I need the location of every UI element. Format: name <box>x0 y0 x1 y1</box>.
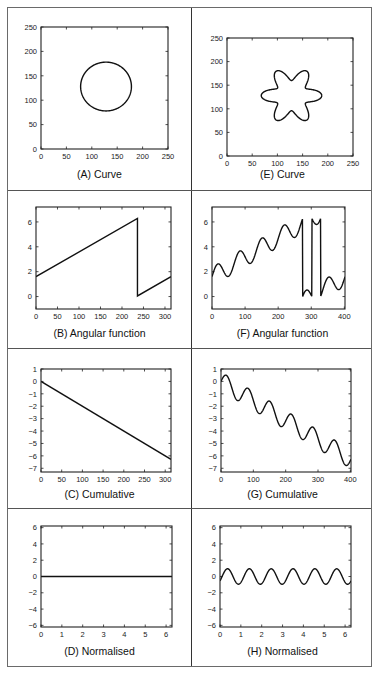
data-series-line <box>212 219 345 297</box>
panel-c-cumulative: 05010015020025030010−1−2−3−4−5−6−7 (C) C… <box>8 349 191 508</box>
y-tick-label: −6 <box>28 621 37 630</box>
caption-g: (G) Cumulative <box>192 488 373 500</box>
y-tick-label: −4 <box>28 427 37 436</box>
x-tick-label: 0 <box>210 312 214 321</box>
y-tick-label: 0 <box>213 377 217 386</box>
caption-a: (A) Curve <box>8 168 191 180</box>
y-tick-label: 2 <box>33 556 37 565</box>
x-tick-label: 200 <box>136 152 149 161</box>
x-tick-label: 250 <box>162 152 175 161</box>
plot-frame <box>227 38 353 156</box>
panel-b-angular-function: 0501001502002503000246 (B) Angular funct… <box>8 191 191 348</box>
x-tick-label: 300 <box>159 312 172 321</box>
x-tick-label: 50 <box>62 152 70 161</box>
panel-d-normalised: 01234566420−2−4−6 (D) Normalised <box>8 509 191 667</box>
x-tick-label: 1 <box>60 630 64 639</box>
y-tick-label: 50 <box>215 128 223 137</box>
x-tick-label: 6 <box>343 630 347 639</box>
plot-h: 01234566420−2−4−6 <box>192 509 373 644</box>
y-tick-label: −6 <box>208 452 217 461</box>
x-tick-label: 50 <box>248 159 256 168</box>
y-tick-label: −7 <box>208 464 217 473</box>
plot-frame <box>212 207 345 309</box>
y-tick-label: −3 <box>28 414 37 423</box>
y-tick-label: 0 <box>28 292 32 301</box>
x-tick-label: 300 <box>312 475 325 484</box>
x-tick-label: 3 <box>280 630 284 639</box>
x-tick-label: 5 <box>322 630 326 639</box>
x-tick-label: 100 <box>76 475 89 484</box>
y-tick-label: 0 <box>33 572 37 581</box>
y-tick-label: −5 <box>28 439 37 448</box>
y-tick-label: 2 <box>212 556 216 565</box>
plot-e: 050100150200250050100150200250 <box>192 8 373 168</box>
x-tick-label: 200 <box>272 312 285 321</box>
x-tick-label: 2 <box>260 630 264 639</box>
y-tick-label: 150 <box>210 81 223 90</box>
x-tick-label: 0 <box>218 630 222 639</box>
y-tick-label: 6 <box>204 218 208 227</box>
x-tick-label: 100 <box>271 159 284 168</box>
y-tick-label: −6 <box>28 452 37 461</box>
plot-d: 01234566420−2−4−6 <box>8 509 191 644</box>
y-tick-label: 200 <box>24 47 37 56</box>
x-tick-label: 400 <box>344 475 357 484</box>
plot-frame <box>36 207 171 309</box>
x-tick-label: 4 <box>301 630 305 639</box>
y-tick-label: −2 <box>28 402 37 411</box>
caption-h: (H) Normalised <box>192 645 373 657</box>
y-tick-label: 4 <box>212 540 216 549</box>
data-series-line <box>81 62 132 111</box>
panel-e-curve: 050100150200250050100150200250 (E) Curve <box>192 8 373 190</box>
x-tick-label: 50 <box>58 475 66 484</box>
x-tick-label: 0 <box>34 312 38 321</box>
data-series-line <box>261 71 321 121</box>
y-tick-label: 0 <box>204 292 208 301</box>
x-tick-label: 200 <box>279 475 292 484</box>
y-tick-label: 0 <box>33 145 37 154</box>
y-tick-label: 1 <box>213 365 217 374</box>
x-tick-label: 0 <box>225 159 229 168</box>
x-tick-label: 2 <box>81 630 85 639</box>
x-tick-label: 200 <box>322 159 335 168</box>
y-tick-label: 0 <box>33 377 37 386</box>
data-series-line <box>36 218 171 296</box>
y-tick-label: 200 <box>210 57 223 66</box>
data-series-line <box>221 375 351 465</box>
y-tick-label: 150 <box>24 72 37 81</box>
y-tick-label: 6 <box>212 523 216 532</box>
x-tick-label: 200 <box>116 312 129 321</box>
y-tick-label: −5 <box>208 439 217 448</box>
panel-g-cumulative: 010020030040010−1−2−3−4−5−6−7 (G) Cumula… <box>192 349 373 508</box>
y-tick-label: 1 <box>33 365 37 374</box>
y-tick-label: 250 <box>210 34 223 43</box>
y-tick-label: 2 <box>204 267 208 276</box>
x-tick-label: 5 <box>143 630 147 639</box>
y-tick-label: −1 <box>28 390 37 399</box>
plot-a: 050100150200250050100150200250 <box>8 8 191 168</box>
y-tick-label: 0 <box>212 572 216 581</box>
x-tick-label: 100 <box>73 312 86 321</box>
x-tick-label: 250 <box>137 312 150 321</box>
y-tick-label: −2 <box>208 402 217 411</box>
x-tick-label: 4 <box>122 630 126 639</box>
plot-g: 010020030040010−1−2−3−4−5−6−7 <box>192 349 373 486</box>
caption-f: (F) Angular function <box>192 327 373 339</box>
x-tick-label: 300 <box>305 312 318 321</box>
y-tick-label: 4 <box>33 540 37 549</box>
y-tick-label: 0 <box>219 152 223 161</box>
x-tick-label: 0 <box>219 475 223 484</box>
data-series-line <box>220 569 351 584</box>
x-tick-label: 0 <box>39 630 43 639</box>
y-tick-label: 250 <box>24 23 37 32</box>
x-tick-label: 6 <box>164 630 168 639</box>
caption-d: (D) Normalised <box>8 645 191 657</box>
y-tick-label: 50 <box>29 120 37 129</box>
caption-e: (E) Curve <box>192 168 373 180</box>
x-tick-label: 50 <box>53 312 61 321</box>
x-tick-label: 3 <box>101 630 105 639</box>
y-tick-label: −2 <box>28 588 37 597</box>
x-tick-label: 100 <box>86 152 99 161</box>
x-tick-label: 250 <box>347 159 360 168</box>
panel-a-curve: 050100150200250050100150200250 (A) Curve <box>8 8 191 190</box>
